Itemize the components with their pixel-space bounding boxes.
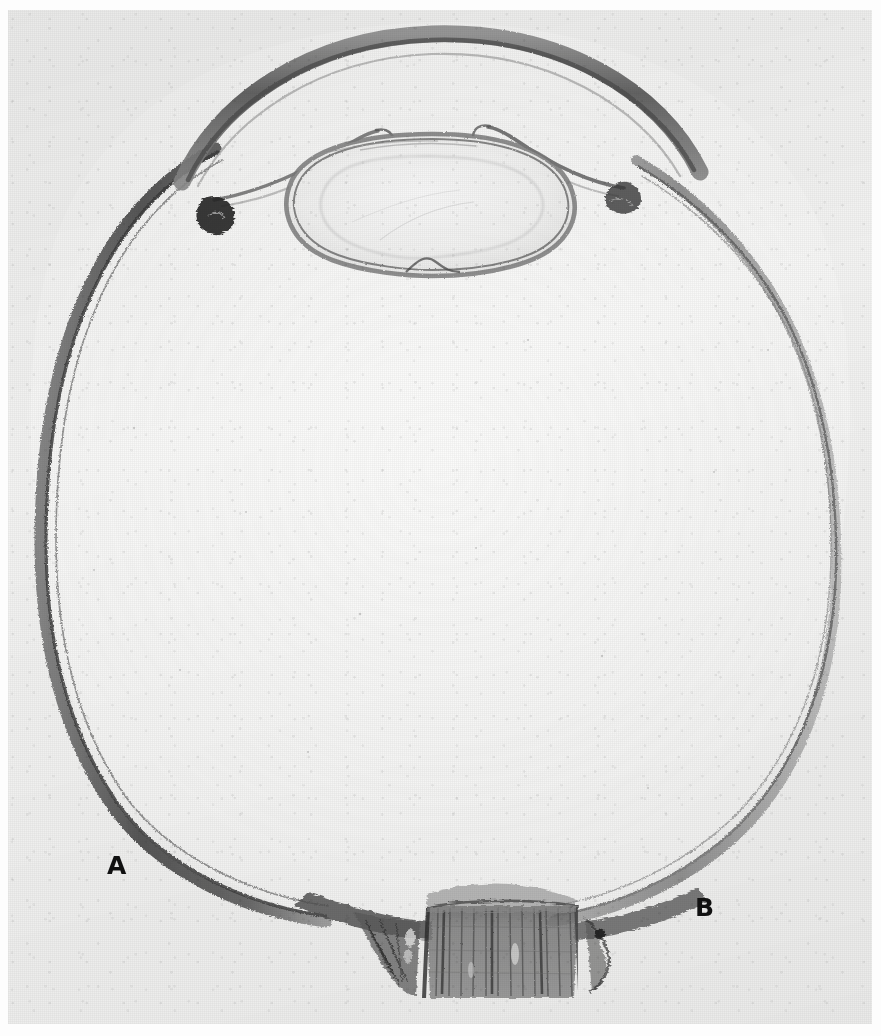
plate-label-a: A — [107, 853, 126, 878]
plate-label-b: B — [695, 895, 714, 920]
perineural-sheath-left — [354, 912, 420, 996]
figure-root: A B — [0, 0, 881, 1036]
eye-section-illustration — [8, 10, 872, 1024]
photomicrograph-plate: A B — [8, 10, 872, 1024]
lens — [286, 134, 574, 276]
